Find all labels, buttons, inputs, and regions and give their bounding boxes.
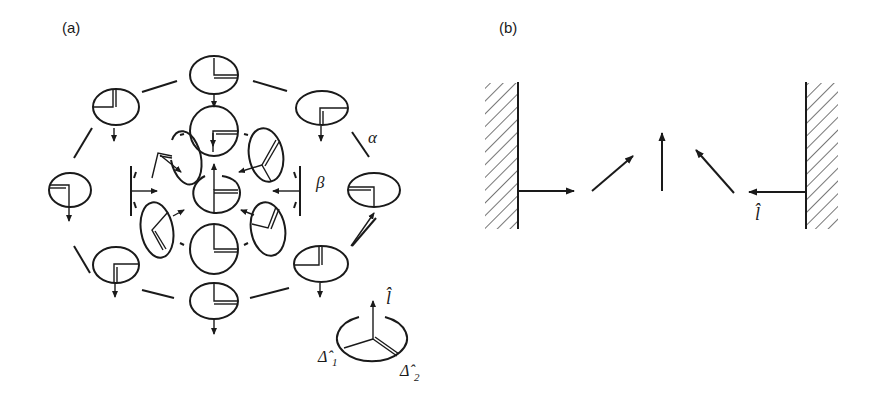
vector-l-label: l̂	[755, 203, 761, 224]
cell-inner-top	[190, 106, 238, 156]
figure: (a) α	[0, 0, 882, 403]
beta-label: β	[315, 173, 325, 192]
alpha-label: α	[368, 128, 378, 147]
panel-b-label: (b)	[499, 19, 517, 36]
cell-inner-lower-right	[241, 199, 289, 258]
legend-delta1-label: Δ̂	[317, 348, 333, 365]
cell-outer-bottom	[190, 283, 238, 334]
right-wall	[806, 82, 838, 229]
cell-outer-top	[190, 56, 238, 107]
legend-delta1-sub: 1	[332, 356, 338, 368]
cell-outer-top-right	[296, 91, 348, 141]
legend-l-label: l̂	[386, 287, 392, 308]
legend-cell: l̂ Δ̂ 1 Δ̂ 2	[317, 287, 420, 383]
left-wall	[485, 82, 518, 229]
cell-outer-left	[49, 173, 91, 221]
cell-outer-top-left	[93, 89, 139, 141]
cell-inner-lower-left	[136, 200, 184, 261]
cell-outer-right	[348, 173, 400, 246]
arrow-up-left	[696, 150, 734, 193]
cell-outer-bottom-left	[93, 247, 139, 297]
cell-inner-bottom	[190, 224, 238, 274]
cell-inner-upper-left	[152, 131, 202, 184]
cell-outer-bottom-right	[294, 246, 348, 297]
panel-b: (b) l̂	[485, 19, 838, 229]
legend-delta2-label: Δ̂	[399, 362, 415, 379]
legend-delta2-sub: 2	[414, 371, 420, 383]
panel-a-label: (a)	[62, 19, 80, 36]
arrow-up-right	[592, 156, 633, 191]
panel-a: (a) α	[49, 19, 420, 383]
